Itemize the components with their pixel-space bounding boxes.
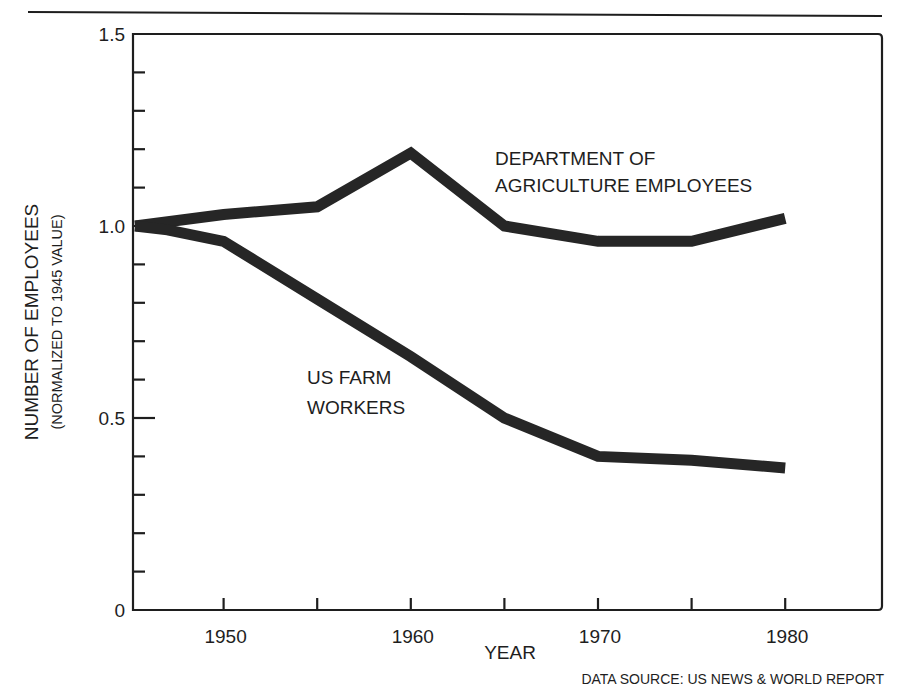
x-tick-label: 1960 — [392, 626, 434, 647]
x-tick-label: 1980 — [766, 626, 808, 647]
series-label-farm-workers: US FARM WORKERS — [307, 367, 405, 418]
data-source-note: DATA SOURCE: US NEWS & WORLD REPORT — [581, 671, 884, 687]
series-line-agriculture-employees — [135, 153, 785, 241]
y-tick-label: 0 — [114, 600, 125, 621]
plot-border — [133, 34, 882, 610]
x-axis-title: YEAR — [484, 642, 536, 663]
y-axis-title: NUMBER OF EMPLOYEES — [21, 204, 42, 441]
y-tick-label: 0.5 — [99, 408, 125, 429]
x-tick-label: 1970 — [579, 626, 621, 647]
series-label-line: US FARM — [307, 367, 391, 388]
y-tick-label: 1.5 — [99, 24, 125, 45]
data-series — [135, 153, 785, 468]
series-line-farm-workers — [135, 226, 785, 468]
x-tick-label: 1950 — [204, 626, 246, 647]
x-axis-ticks: 1950196019701980 — [204, 598, 808, 647]
top-rule — [28, 12, 882, 16]
series-label-line: WORKERS — [307, 397, 405, 418]
series-label-agriculture: DEPARTMENT OF AGRICULTURE EMPLOYEES — [495, 148, 752, 196]
y-axis-subtitle: (NORMALIZED TO 1945 VALUE) — [49, 214, 65, 429]
line-chart: 00.51.01.5 1950196019701980 NUMBER OF EM… — [0, 0, 902, 700]
plot-frame — [133, 34, 882, 610]
y-tick-label: 1.0 — [99, 216, 125, 237]
series-label-line: AGRICULTURE EMPLOYEES — [495, 175, 752, 196]
series-label-line: DEPARTMENT OF — [495, 148, 655, 169]
y-axis-ticks: 00.51.01.5 — [99, 24, 155, 621]
